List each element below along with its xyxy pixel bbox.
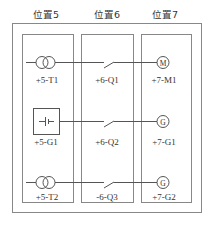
- label-q1: +6-Q1: [95, 75, 119, 85]
- battery-box: [34, 109, 60, 135]
- row-3: G +5-T2 -6-Q3 +7-G2: [26, 177, 176, 203]
- label-g1-load: +7-G1: [152, 137, 176, 147]
- label-q2: +6-Q2: [95, 137, 119, 147]
- label-g1-source: +5-G1: [34, 137, 58, 147]
- header-position-7: 位置7: [152, 9, 178, 20]
- position-6-box: [82, 35, 134, 203]
- label-q3: -6-Q3: [96, 192, 118, 202]
- header-position-5: 位置5: [33, 9, 59, 20]
- location-diagram: 位置5 位置6 位置7 M +5-T1 +6-Q1 +7-M1: [0, 0, 208, 227]
- generator-icon: G: [157, 116, 169, 128]
- outer-frame: [13, 24, 202, 213]
- svg-text:G: G: [160, 118, 166, 127]
- position-5-box: [23, 35, 74, 203]
- label-t1: +5-T1: [36, 75, 59, 85]
- generator-icon: G: [157, 177, 169, 189]
- row-1: M +5-T1 +6-Q1 +7-M1: [26, 57, 177, 86]
- header-position-6: 位置6: [94, 9, 120, 20]
- switch-icon: [104, 182, 114, 188]
- row-2: G +5-G1 +6-Q2 +7-G1: [34, 109, 176, 148]
- motor-icon: M: [157, 57, 169, 69]
- label-g2: +7-G2: [152, 192, 176, 202]
- switch-icon: [104, 62, 114, 68]
- svg-text:G: G: [160, 179, 166, 188]
- switch-icon: [104, 121, 114, 127]
- transformer-icon: [36, 177, 55, 189]
- svg-text:M: M: [160, 59, 167, 68]
- label-t2: +5-T2: [36, 192, 59, 202]
- label-m1: +7-M1: [151, 75, 176, 85]
- battery-icon: [39, 117, 54, 126]
- transformer-icon: [36, 57, 55, 69]
